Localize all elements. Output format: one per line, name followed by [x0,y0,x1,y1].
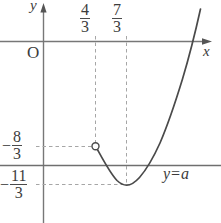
tick-label-minus-11-over-3-numerator: 11 [10,168,27,185]
tick-label-4-over-3-denominator: 3 [80,19,90,35]
tick-label-minus-8-over-3-sign: − [2,138,11,154]
tick-label-7-over-3-denominator: 3 [112,19,122,35]
origin-label: O [27,44,39,61]
tick-label-minus-8-over-3-denominator: 3 [12,146,22,162]
tick-label-7-over-3-numerator: 7 [112,2,122,19]
x-axis-label: x [203,44,210,59]
y-axis-label: y [30,0,37,13]
tick-label-minus-11-over-3: − 11 3 [0,168,27,202]
tick-label-4-over-3-numerator: 4 [80,2,90,19]
y-axis-arrowhead [40,3,46,13]
tick-label-4-over-3: 4 3 [80,2,90,36]
coordinate-plane-svg [0,0,221,223]
tick-label-minus-8-over-3-numerator: 8 [12,129,22,146]
tick-label-minus-11-over-3-sign: − [0,177,9,193]
parabola-figure: 4 3 7 3 O y x − 8 3 − 11 3 y=a [0,0,221,223]
line-label-y-equals-a: y=a [163,166,189,182]
tick-label-minus-8-over-3: − 8 3 [2,129,22,163]
tick-label-7-over-3: 7 3 [112,2,122,36]
open-circle-point [92,143,99,150]
tick-label-minus-11-over-3-denominator: 3 [10,185,27,201]
